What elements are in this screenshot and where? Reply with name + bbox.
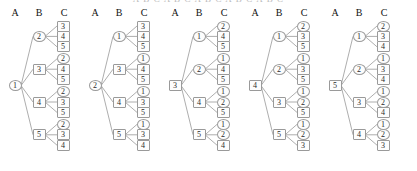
node-b-4-1: 1 [273, 31, 286, 42]
node-c-3-5-4: 4 [217, 140, 230, 151]
node-b-4-2: 2 [273, 64, 286, 75]
node-c-4-3-2: 2 [297, 97, 310, 108]
node-b-5-4: 4 [353, 129, 366, 140]
node-c-3-2-5: 5 [217, 74, 230, 85]
node-c-5-1-4: 4 [377, 41, 390, 52]
node-c-2-1-3: 3 [137, 21, 150, 32]
node-c-1-3-4: 4 [57, 64, 70, 75]
node-c-1-4-3: 3 [57, 97, 70, 108]
node-c-2-1-4: 4 [137, 31, 150, 42]
node-c-2-5-4: 4 [137, 140, 150, 151]
node-c-5-1-2: 2 [377, 21, 390, 32]
node-c-4-5-1: 1 [297, 119, 310, 130]
node-b-5-3: 3 [353, 97, 366, 108]
node-b-5-2: 2 [353, 64, 366, 75]
node-c-5-4-1: 1 [377, 119, 390, 130]
node-b-1-3: 3 [33, 64, 46, 75]
node-c-3-2-4: 4 [217, 64, 230, 75]
node-b-4-5: 5 [273, 129, 286, 140]
node-c-2-5-3: 3 [137, 129, 150, 140]
node-b-4-3: 3 [273, 97, 286, 108]
node-c-3-4-5: 5 [217, 107, 230, 118]
node-c-1-4-5: 5 [57, 107, 70, 118]
node-b-2-4: 4 [113, 97, 126, 108]
node-c-2-4-3: 3 [137, 97, 150, 108]
node-c-5-2-3: 3 [377, 64, 390, 75]
node-c-1-5-3: 3 [57, 129, 70, 140]
node-a-root-4: 4 [249, 80, 262, 91]
tree-root-1: ABC34522453235423451 [0, 0, 80, 171]
node-c-4-2-3: 3 [297, 64, 310, 75]
node-c-3-1-4: 4 [217, 31, 230, 42]
tree-root-5: ABC23411342124312345 [320, 0, 417, 171]
node-c-5-2-1: 1 [377, 53, 390, 64]
tree-root-3: ABC24511452125412453 [160, 0, 240, 171]
node-c-1-3-5: 5 [57, 74, 70, 85]
node-c-1-2-5: 5 [57, 41, 70, 52]
node-c-4-2-1: 1 [297, 53, 310, 64]
node-b-1-5: 5 [33, 129, 46, 140]
node-c-3-4-2: 2 [217, 97, 230, 108]
node-c-5-3-2: 2 [377, 97, 390, 108]
node-a-root-2: 2 [89, 80, 102, 91]
node-a-root-3: 3 [169, 80, 182, 91]
node-b-3-5: 5 [193, 129, 206, 140]
node-c-3-4-1: 1 [217, 86, 230, 97]
node-c-2-3-1: 1 [137, 53, 150, 64]
node-a-root-1: 1 [9, 80, 22, 91]
node-c-3-1-5: 5 [217, 41, 230, 52]
node-b-3-2: 2 [193, 64, 206, 75]
node-c-2-5-1: 1 [137, 119, 150, 130]
node-c-5-4-3: 3 [377, 140, 390, 151]
node-c-5-4-2: 2 [377, 129, 390, 140]
node-c-1-2-3: 3 [57, 21, 70, 32]
node-b-1-2: 2 [33, 31, 46, 42]
node-c-1-4-2: 2 [57, 86, 70, 97]
node-c-4-3-5: 5 [297, 107, 310, 118]
node-c-1-5-2: 2 [57, 119, 70, 130]
node-b-2-1: 1 [113, 31, 126, 42]
node-b-3-1: 1 [193, 31, 206, 42]
node-c-5-3-1: 1 [377, 86, 390, 97]
node-b-2-3: 3 [113, 64, 126, 75]
tree-root-4: ABC23511352125312354 [240, 0, 320, 171]
node-c-1-5-4: 4 [57, 140, 70, 151]
node-c-4-1-2: 2 [297, 21, 310, 32]
node-c-4-1-3: 3 [297, 31, 310, 42]
permutation-trees-figure: A B C A B C A B C A B C A B C ABC3452245… [0, 0, 417, 171]
node-c-2-4-1: 1 [137, 86, 150, 97]
node-c-5-3-4: 4 [377, 107, 390, 118]
node-c-4-5-3: 3 [297, 140, 310, 151]
node-c-3-5-1: 1 [217, 119, 230, 130]
node-b-3-4: 4 [193, 97, 206, 108]
tree-root-2: ABC34511453135413452 [80, 0, 160, 171]
node-b-5-1: 1 [353, 31, 366, 42]
node-a-root-5: 5 [329, 80, 342, 91]
node-c-3-5-2: 2 [217, 129, 230, 140]
node-c-1-2-4: 4 [57, 31, 70, 42]
node-c-5-2-4: 4 [377, 74, 390, 85]
node-b-1-4: 4 [33, 97, 46, 108]
node-c-4-5-2: 2 [297, 129, 310, 140]
node-c-4-2-5: 5 [297, 74, 310, 85]
node-c-5-1-3: 3 [377, 31, 390, 42]
node-b-2-5: 5 [113, 129, 126, 140]
node-c-1-3-2: 2 [57, 53, 70, 64]
node-c-2-3-4: 4 [137, 64, 150, 75]
node-c-3-2-1: 1 [217, 53, 230, 64]
node-c-2-3-5: 5 [137, 74, 150, 85]
node-c-4-3-1: 1 [297, 86, 310, 97]
node-c-2-4-5: 5 [137, 107, 150, 118]
node-c-3-1-2: 2 [217, 21, 230, 32]
node-c-4-1-5: 5 [297, 41, 310, 52]
node-c-2-1-5: 5 [137, 41, 150, 52]
tree-row: ABC34522453235423451ABC34511453135413452… [0, 0, 417, 171]
